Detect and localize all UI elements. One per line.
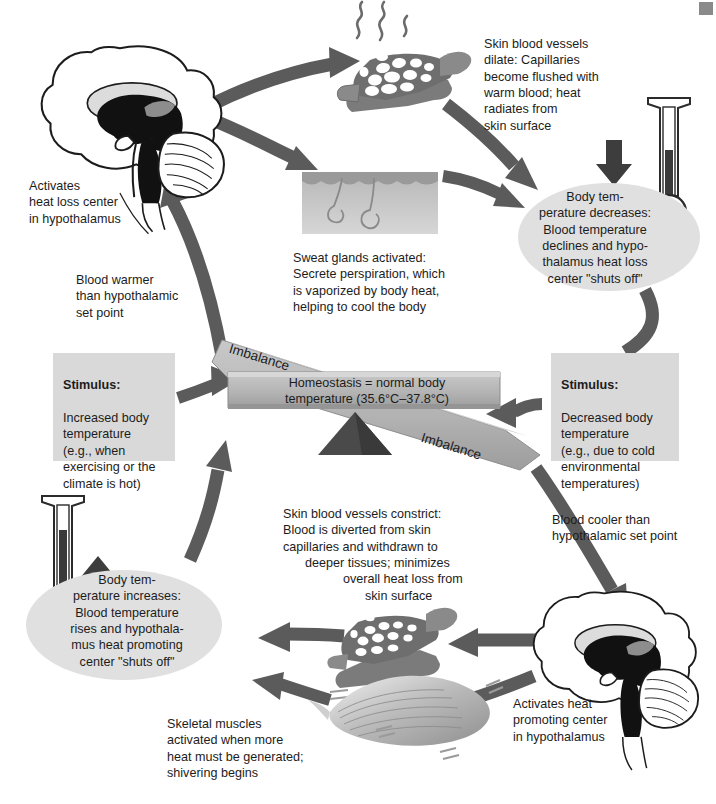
label-skeletal-muscles: Skeletal muscles activated when more hea…	[167, 716, 417, 781]
label-blood-cooler: Blood cooler than hypothalamic set point	[552, 512, 712, 545]
constrict-line-6: skin surface	[283, 588, 523, 604]
constrict-line-4: deeper tissues; minimizes	[283, 555, 523, 571]
stimulus-box-left: Stimulus: Increased body temperature (e.…	[53, 353, 175, 461]
stimulus-right-heading: Stimulus:	[561, 378, 618, 392]
balance-center-label: Homeostasis = normal body temperature (3…	[242, 375, 492, 408]
label-blood-warmer: Blood warmer than hypothalamic set point	[76, 272, 236, 321]
diagram-canvas: Activates heat loss center in hypothalam…	[0, 0, 716, 804]
constrict-line-2: Blood is diverted from skin	[283, 522, 523, 538]
arrow-constricted-capillary-to-temp-increase	[258, 622, 344, 652]
down-arrow-icon	[596, 140, 632, 186]
arrow-brain-to-constricted-capillary	[448, 628, 540, 657]
label-skin-vessels-constrict: Skin blood vessels constrict: Blood is d…	[283, 506, 523, 604]
capillary-bed-dilated-icon	[337, 2, 471, 112]
label-activates-heat-loss-center: Activates heat loss center in hypothalam…	[29, 178, 199, 227]
label-skin-vessels-dilate: Skin blood vessels dilate: Capillaries b…	[484, 36, 664, 134]
arrow-muscle-to-temp-increase	[252, 672, 330, 700]
stimulus-left-heading: Stimulus:	[63, 378, 120, 392]
skin-sweat-gland-icon	[302, 145, 438, 234]
stimulus-box-right: Stimulus: Decreased body temperature (e.…	[551, 353, 679, 461]
corner-mark	[699, 2, 713, 15]
arrow-brain-to-capillary	[205, 47, 360, 108]
constrict-line-5: overall heat loss from	[283, 571, 523, 587]
label-activates-heat-promoting-center: Activates heat promoting center in hypot…	[513, 696, 693, 745]
label-body-temp-increases: Body tem- perature increases: Blood temp…	[44, 572, 210, 670]
label-body-temp-decreases: Body tem- perature decreases: Blood temp…	[519, 189, 671, 287]
constrict-line-3: capillaries and withdrawn to	[283, 539, 523, 555]
arrow-temp-increase-to-balance	[190, 440, 232, 560]
constrict-line-1: Skin blood vessels constrict:	[283, 506, 523, 522]
label-sweat-glands: Sweat glands activated: Secrete perspira…	[293, 250, 523, 315]
